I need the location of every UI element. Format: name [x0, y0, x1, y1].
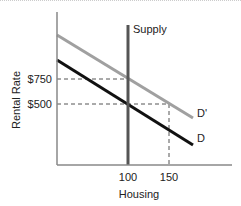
- y-axis-label: Rental Rate: [10, 71, 22, 129]
- demand-label: D: [197, 132, 205, 144]
- x-tick-150: 150: [160, 171, 178, 183]
- supply-demand-chart: Supply D' D $750 $500 100 150 Housing Re…: [0, 0, 241, 206]
- demand-shifted-line: [57, 35, 193, 118]
- supply-label: Supply: [133, 23, 167, 35]
- y-tick-500: $500: [28, 98, 52, 110]
- x-tick-100: 100: [119, 171, 137, 183]
- y-tick-750: $750: [28, 73, 52, 85]
- x-axis-label: Housing: [119, 188, 159, 200]
- demand-line: [57, 60, 193, 145]
- demand-shifted-label: D': [197, 107, 207, 119]
